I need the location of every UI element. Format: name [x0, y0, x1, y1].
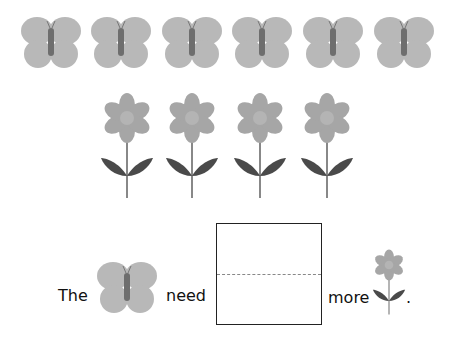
butterfly-icon	[232, 17, 292, 68]
dashed-guide-line	[217, 274, 321, 275]
butterfly-icon	[21, 17, 81, 68]
butterfly-row	[21, 17, 434, 68]
answer-box[interactable]	[216, 223, 322, 325]
butterfly-icon	[303, 17, 363, 68]
butterfly-icon	[91, 17, 151, 68]
butterfly-icon	[374, 17, 434, 68]
flower-icon	[101, 93, 153, 198]
flower-icon	[373, 250, 405, 315]
sentence-word-more: more	[328, 288, 369, 307]
sentence-period: .	[406, 288, 411, 307]
flower-icon	[301, 93, 353, 198]
flower-icon	[234, 93, 286, 198]
flower-row	[101, 93, 353, 198]
butterfly-icon	[162, 17, 222, 68]
sentence-word-need: need	[166, 286, 206, 305]
sentence-word-the: The	[58, 286, 88, 305]
flower-icon	[166, 93, 218, 198]
butterfly-icon	[97, 262, 157, 313]
